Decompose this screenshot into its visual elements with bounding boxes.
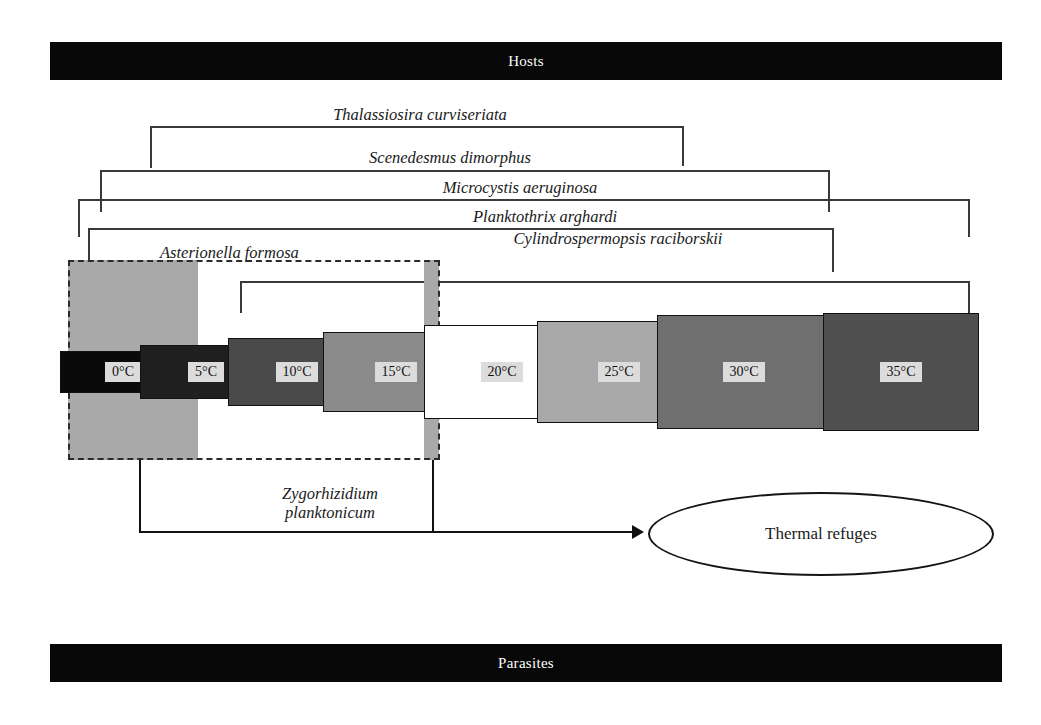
arrow-head-icon: [632, 525, 644, 539]
bracket-horizontal-line: [150, 126, 684, 128]
temperature-box-label: 30°C: [723, 362, 766, 383]
temperature-box-label: 0°C: [105, 362, 141, 383]
species-label-thalassiosira-curviseriata: Thalassiosira curviseriata: [333, 105, 507, 125]
bracket-right-tick: [832, 228, 834, 272]
parasites-banner-label: Parasites: [498, 655, 554, 672]
bracket-right-tick: [682, 126, 684, 166]
species-label-planktothrix-arghardi: Planktothrix arghardi: [473, 207, 617, 227]
bracket-left-tick: [150, 126, 152, 168]
temperature-box-35c: 35°C: [823, 313, 979, 431]
bracket-horizontal-line: [100, 170, 830, 172]
temperature-box-label: 35°C: [880, 362, 923, 383]
bracket-right-tick: [968, 199, 970, 237]
connector-horizontal-arrow-shaft: [139, 531, 632, 533]
thermal-refuges-label: Thermal refuges: [765, 524, 877, 544]
temperature-box-30c: 30°C: [657, 315, 831, 429]
species-label-scenedesmus-dimorphus: Scenedesmus dimorphus: [369, 148, 531, 168]
temperature-box-label: 10°C: [276, 362, 319, 383]
hosts-banner-label: Hosts: [508, 53, 544, 70]
diagram-canvas: Hosts Thalassiosira curviseriataScenedes…: [0, 0, 1041, 725]
species-label-microcystis-aeruginosa: Microcystis aeruginosa: [443, 178, 598, 198]
temperature-box-label: 25°C: [598, 362, 641, 383]
zygorhizidium-caption: Zygorhizidium planktonicum: [282, 484, 378, 523]
parasites-banner: Parasites: [50, 644, 1002, 682]
temperature-box-label: 15°C: [375, 362, 418, 383]
connector-left-vertical: [139, 460, 141, 531]
hosts-banner: Hosts: [50, 42, 1002, 80]
bracket-horizontal-line: [78, 199, 970, 201]
thermal-refuges-ellipse: Thermal refuges: [648, 492, 994, 576]
bracket-left-tick: [78, 199, 80, 237]
zygorhizidium-caption-line2: planktonicum: [282, 503, 378, 522]
species-label-cylindrospermopsis-raciborskii: Cylindrospermopsis raciborskii: [514, 229, 723, 249]
zygorhizidium-caption-line1: Zygorhizidium: [282, 484, 378, 503]
temperature-box-label: 20°C: [481, 362, 524, 383]
connector-right-vertical: [432, 460, 434, 531]
temperature-box-label: 5°C: [188, 362, 224, 383]
